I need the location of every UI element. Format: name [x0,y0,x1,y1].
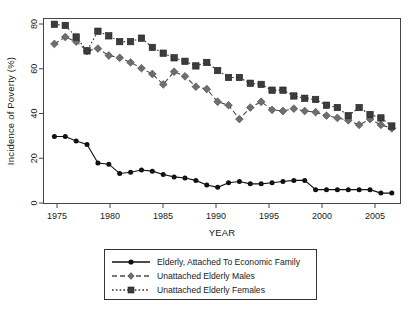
svg-text:40: 40 [29,108,39,118]
data-point-square [236,74,242,80]
legend-label-unattached-females: Unattached Elderly Females [157,285,265,295]
data-point-circle [324,187,329,192]
data-point-circle [85,142,90,147]
svg-text:1985: 1985 [153,211,173,221]
data-point-square [127,38,133,44]
data-point-square [95,28,101,34]
y-axis-title: Incidence of Poverty (%) [5,57,16,165]
data-point-circle [95,161,100,166]
data-point-square [160,50,166,56]
legend-marker-circle [128,259,133,264]
data-point-circle [193,178,198,183]
svg-text:2005: 2005 [365,211,385,221]
data-point-circle [139,167,144,172]
data-point-square [334,104,340,110]
data-point-square [323,102,329,108]
data-point-square [73,34,79,40]
data-point-square [345,112,351,118]
data-point-circle [237,179,242,184]
data-point-circle [204,183,209,188]
data-point-square [138,35,144,41]
legend: Elderly, Attached To Economic Family Una… [105,250,317,300]
svg-text:1980: 1980 [100,211,120,221]
data-point-square [389,123,395,129]
svg-text:20: 20 [29,153,39,163]
data-point-circle [63,134,68,139]
legend-label-elderly-attached: Elderly, Attached To Economic Family [157,257,301,267]
x-axis-title: YEAR [209,227,236,238]
data-point-square [193,63,199,69]
data-point-square [247,80,253,86]
data-point-circle [226,180,231,185]
data-point-circle [270,180,275,185]
data-point-square [51,21,57,27]
data-point-circle [302,178,307,183]
data-point-circle [346,187,351,192]
svg-text:1990: 1990 [206,211,226,221]
data-point-square [356,104,362,110]
data-point-circle [161,172,166,177]
data-point-circle [335,187,340,192]
data-point-circle [52,134,57,139]
legend-marker-square [128,287,134,293]
data-point-square [62,22,68,28]
data-point-circle [291,178,296,183]
data-point-circle [74,139,79,144]
data-point-square [149,44,155,50]
data-point-circle [117,171,122,176]
data-point-circle [182,176,187,181]
data-point-square [214,67,220,73]
data-point-circle [378,191,383,196]
data-point-circle [150,169,155,174]
svg-text:1975: 1975 [47,211,67,221]
data-point-circle [215,185,220,190]
svg-text:80: 80 [29,19,39,29]
data-point-circle [172,174,177,179]
poverty-incidence-chart: 80 60 40 20 0 Incidence of Poverty (%) 1… [0,0,417,315]
data-point-square [84,48,90,54]
data-point-circle [313,187,318,192]
data-point-square [182,58,188,64]
data-point-square [291,93,297,99]
data-point-circle [259,181,264,186]
data-point-circle [128,170,133,175]
data-point-square [225,74,231,80]
data-point-square [116,38,122,44]
svg-text:2000: 2000 [312,211,332,221]
data-point-circle [357,187,362,192]
data-point-square [367,111,373,117]
data-point-circle [248,181,253,186]
svg-text:0: 0 [29,200,39,205]
data-point-square [378,115,384,121]
data-point-square [302,95,308,101]
data-point-square [269,87,275,93]
data-point-square [106,33,112,39]
data-point-square [312,96,318,102]
data-point-square [258,81,264,87]
legend-label-unattached-males: Unattached Elderly Males [157,271,255,281]
data-point-square [280,87,286,93]
data-point-square [171,55,177,61]
data-point-circle [368,187,373,192]
data-point-circle [389,191,394,196]
data-point-circle [280,179,285,184]
svg-text:60: 60 [29,64,39,74]
data-point-circle [106,162,111,167]
data-point-square [204,59,210,65]
svg-text:1995: 1995 [259,211,279,221]
